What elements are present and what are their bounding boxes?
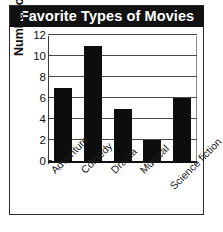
y-tick-label: 2 xyxy=(20,135,46,147)
y-tick-label: 4 xyxy=(20,114,46,126)
page-title: Favorite Types of Movies xyxy=(20,9,195,24)
bar-chart-figure: Favorite Types of Movies Number of stude… xyxy=(0,0,216,232)
y-tick-mark xyxy=(48,97,52,98)
y-tick-mark xyxy=(48,160,52,161)
y-tick-label: 12 xyxy=(20,30,46,42)
y-tick-mark xyxy=(48,55,52,56)
y-tick-mark xyxy=(48,76,52,77)
y-tick-mark xyxy=(48,118,52,119)
y-tick-label: 0 xyxy=(20,156,46,168)
chart-title-banner: Favorite Types of Movies xyxy=(10,6,204,27)
x-axis-tick-labels: AdventureComedyDramaMusicalScience ficti… xyxy=(48,164,208,230)
bar xyxy=(173,98,191,161)
gridline xyxy=(48,55,197,56)
y-tick-mark xyxy=(48,139,52,140)
gridline xyxy=(48,76,197,77)
y-tick-label: 6 xyxy=(20,93,46,105)
y-tick-label: 8 xyxy=(20,72,46,84)
y-tick-mark xyxy=(48,34,52,35)
y-axis-tick-labels: 024681012 xyxy=(16,36,46,164)
gridline xyxy=(48,34,197,35)
y-tick-label: 10 xyxy=(20,51,46,63)
